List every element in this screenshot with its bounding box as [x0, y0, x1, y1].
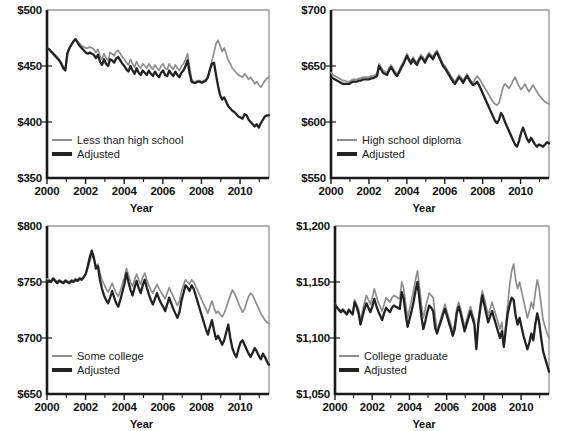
legend-label: High school diploma — [362, 134, 461, 146]
x-tick-label: 2002 — [360, 401, 385, 413]
y-tick-label: $350 — [17, 172, 42, 184]
y-tick-label: $650 — [17, 388, 42, 400]
legend-high-school-diploma: High school diplomaAdjusted — [337, 133, 461, 161]
y-tick-label: $800 — [17, 220, 42, 232]
x-axis-title-college-graduate: Year — [283, 418, 565, 430]
legend-label: Adjusted — [77, 148, 120, 160]
x-tick-label: 2006 — [432, 185, 457, 197]
y-tick-label: $700 — [301, 4, 326, 16]
y-tick-label: $500 — [17, 4, 42, 16]
x-tick-label: 2004 — [394, 185, 419, 197]
legend-line-swatch-icon — [52, 368, 72, 371]
legend-item: High school diploma — [337, 133, 461, 147]
y-tick-label: $700 — [17, 332, 42, 344]
y-tick-label: $750 — [17, 276, 42, 288]
series-line-adjusted — [47, 39, 269, 127]
x-axis-title-less-than-high-school: Year — [0, 202, 283, 214]
legend-label: Adjusted — [364, 364, 407, 376]
y-tick-label: $1,200 — [296, 220, 330, 232]
x-tick-label: 2008 — [189, 185, 214, 197]
legend-label: Less than high school — [77, 134, 183, 146]
legend-item: Some college — [52, 349, 144, 363]
series-line-adjusted — [47, 251, 269, 365]
x-tick-label: 2008 — [471, 401, 496, 413]
y-axis-labels-less-than-high-school: $350$400$450$500 — [0, 0, 44, 215]
legend-line-swatch-icon — [337, 152, 357, 155]
x-tick-label: 2006 — [150, 401, 175, 413]
legend-item: College graduate — [339, 349, 448, 363]
x-tick-label: 2002 — [73, 185, 98, 197]
x-tick-label: 2010 — [228, 401, 253, 413]
legend-label: College graduate — [364, 350, 448, 362]
y-axis-labels-some-college: $650$700$750$800 — [0, 215, 44, 431]
y-tick-label: $650 — [301, 60, 326, 72]
x-tick-label: 2004 — [112, 401, 137, 413]
x-tick-label: 2008 — [189, 401, 214, 413]
legend-item: Adjusted — [52, 147, 183, 161]
legend-item: Adjusted — [52, 363, 144, 377]
x-tick-label: 2000 — [319, 185, 344, 197]
legend-line-swatch-icon — [52, 355, 72, 358]
x-tick-label: 2010 — [509, 401, 534, 413]
legend-item: Adjusted — [339, 363, 448, 377]
legend-label: Adjusted — [362, 148, 405, 160]
x-tick-label: 2000 — [35, 401, 60, 413]
legend-line-swatch-icon — [337, 139, 357, 142]
legend-line-swatch-icon — [52, 139, 72, 142]
earnings-by-education-figure: $350$400$450$500200020022004200620082010… — [0, 0, 565, 431]
legend-less-than-high-school: Less than high schoolAdjusted — [52, 133, 183, 161]
x-tick-label: 2004 — [397, 401, 422, 413]
x-tick-label: 2006 — [434, 401, 459, 413]
legend-label: Some college — [77, 350, 144, 362]
x-axis-title-some-college: Year — [0, 418, 283, 430]
legend-label: Adjusted — [77, 364, 120, 376]
x-axis-title-high-school-diploma: Year — [283, 202, 565, 214]
x-tick-label: 2002 — [357, 185, 382, 197]
x-tick-label: 2010 — [228, 185, 253, 197]
y-tick-label: $1,050 — [296, 388, 330, 400]
legend-item: Adjusted — [337, 147, 461, 161]
y-tick-label: $550 — [301, 172, 326, 184]
legend-some-college: Some collegeAdjusted — [52, 349, 144, 377]
legend-line-swatch-icon — [339, 355, 359, 358]
series-line-primary — [47, 255, 269, 323]
legend-line-swatch-icon — [52, 152, 72, 155]
y-tick-label: $1,150 — [296, 276, 330, 288]
x-tick-label: 2006 — [150, 185, 175, 197]
x-tick-label: 2008 — [470, 185, 495, 197]
y-tick-label: $450 — [17, 60, 42, 72]
y-tick-label: $600 — [301, 116, 326, 128]
x-tick-label: 2010 — [508, 185, 533, 197]
legend-item: Less than high school — [52, 133, 183, 147]
legend-line-swatch-icon — [339, 368, 359, 371]
panel-less-than-high-school: $350$400$450$500200020022004200620082010… — [0, 0, 283, 215]
panel-college-graduate: $1,050$1,100$1,150$1,2002000200220042006… — [283, 215, 565, 431]
x-tick-label: 2002 — [73, 401, 98, 413]
y-axis-labels-high-school-diploma: $550$600$650$700 — [283, 0, 328, 215]
x-tick-label: 2000 — [35, 185, 60, 197]
x-tick-label: 2004 — [112, 185, 137, 197]
y-tick-label: $1,100 — [296, 332, 330, 344]
panel-some-college: $650$700$750$800200020022004200620082010… — [0, 215, 283, 431]
panel-high-school-diploma: $550$600$650$700200020022004200620082010… — [283, 0, 565, 215]
legend-college-graduate: College graduateAdjusted — [339, 349, 448, 377]
y-axis-labels-college-graduate: $1,050$1,100$1,150$1,200 — [283, 215, 332, 431]
x-tick-label: 2000 — [323, 401, 348, 413]
y-tick-label: $400 — [17, 116, 42, 128]
